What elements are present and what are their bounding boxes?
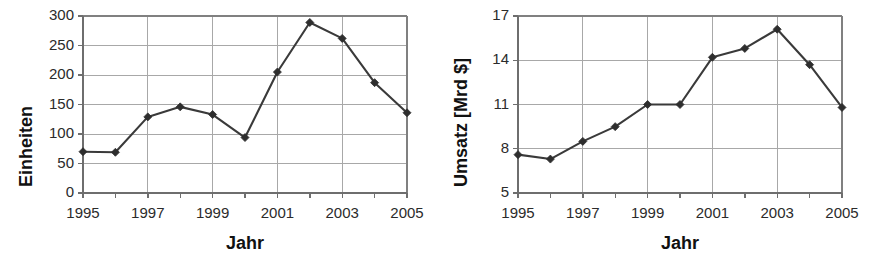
y-tick-label: 150 bbox=[49, 95, 74, 112]
x-axis-title: Jahr bbox=[518, 233, 842, 254]
x-tick-label: 2003 bbox=[747, 204, 807, 221]
y-tick-label: 17 bbox=[492, 6, 509, 23]
y-axis-title: Einheiten bbox=[16, 106, 37, 187]
x-tick-label: 1997 bbox=[553, 204, 613, 221]
x-tick-label: 1999 bbox=[183, 204, 243, 221]
y-tick-label: 250 bbox=[49, 36, 74, 53]
x-axis-title: Jahr bbox=[83, 233, 407, 254]
data-point-marker bbox=[546, 155, 554, 163]
x-tick-label: 1995 bbox=[53, 204, 113, 221]
x-tick-label: 2001 bbox=[682, 204, 742, 221]
data-point-markers bbox=[514, 25, 846, 163]
chart-panel-umsatz: 58111417199519971999200120032005Umsatz [… bbox=[435, 0, 870, 265]
chart-panel-einheiten: 0501001502002503001995199719992001200320… bbox=[0, 0, 435, 265]
y-tick-label: 50 bbox=[57, 154, 74, 171]
data-point-marker bbox=[514, 151, 522, 159]
data-series-line bbox=[518, 29, 842, 159]
x-tick-label: 2005 bbox=[812, 204, 870, 221]
line-chart-umsatz bbox=[435, 0, 870, 265]
figure-root: 0501001502002503001995199719992001200320… bbox=[0, 0, 870, 265]
x-tick-label: 2001 bbox=[247, 204, 307, 221]
x-tick-label: 1997 bbox=[118, 204, 178, 221]
x-tick-label: 1995 bbox=[488, 204, 548, 221]
data-point-markers bbox=[79, 18, 411, 156]
x-tick-label: 1999 bbox=[618, 204, 678, 221]
y-axis-title: Umsatz [Mrd $] bbox=[451, 58, 472, 187]
data-point-marker bbox=[579, 137, 587, 145]
x-tick-label: 2005 bbox=[377, 204, 437, 221]
y-tick-label: 0 bbox=[66, 183, 74, 200]
y-tick-label: 300 bbox=[49, 6, 74, 23]
x-tick-label: 2003 bbox=[312, 204, 372, 221]
gridlines-horizontal bbox=[83, 16, 407, 193]
y-tick-label: 200 bbox=[49, 65, 74, 82]
y-tick-label: 100 bbox=[49, 124, 74, 141]
y-tick-label: 5 bbox=[501, 183, 509, 200]
y-tick-label: 8 bbox=[501, 139, 509, 156]
data-point-marker bbox=[79, 148, 87, 156]
data-series-line bbox=[83, 22, 407, 152]
y-tick-label: 14 bbox=[492, 50, 509, 67]
y-tick-label: 11 bbox=[493, 95, 509, 112]
